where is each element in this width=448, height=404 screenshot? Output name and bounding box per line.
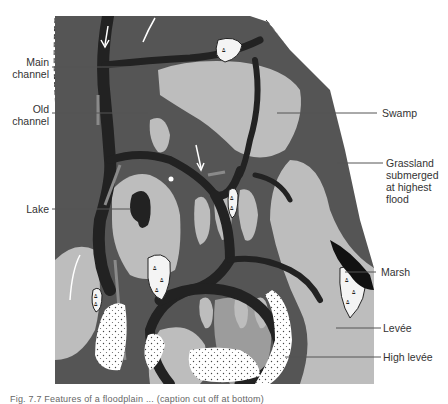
label-swamp: Swamp (382, 107, 417, 119)
label-main-channel: Main channel (0, 56, 49, 80)
label-grassland-line2: submerged (386, 169, 439, 181)
small-white-dot (169, 177, 174, 182)
label-grassland-line4: flood (386, 193, 439, 205)
label-marsh: Marsh (381, 266, 410, 278)
label-old-line2: channel (0, 115, 49, 127)
label-grassland: Grassland submerged at highest flood (386, 157, 439, 205)
label-main-line2: channel (0, 68, 49, 80)
label-lake: Lake (0, 203, 49, 215)
figure-caption: Fig. 7.7 Features of a floodplain ... (c… (10, 394, 264, 404)
label-old-line1: Old (0, 103, 49, 115)
label-high-levee: High levée (383, 351, 433, 363)
label-main-line1: Main (0, 56, 49, 68)
label-grassland-line3: at highest (386, 181, 439, 193)
label-grassland-line1: Grassland (386, 157, 439, 169)
label-levee: Levée (383, 322, 412, 334)
label-old-channel: Old channel (0, 103, 49, 127)
